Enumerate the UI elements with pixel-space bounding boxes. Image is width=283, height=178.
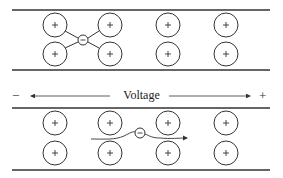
top-ion-grid <box>43 13 238 66</box>
positive-terminal-sign: + <box>259 88 266 104</box>
voltage-label: Voltage <box>0 88 283 103</box>
